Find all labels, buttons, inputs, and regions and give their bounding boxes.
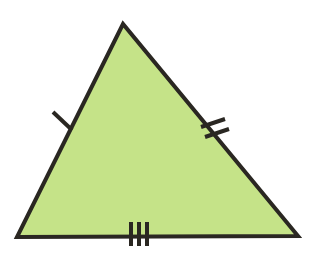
triangle-figure-svg [0,0,311,256]
figure-canvas [0,0,311,256]
